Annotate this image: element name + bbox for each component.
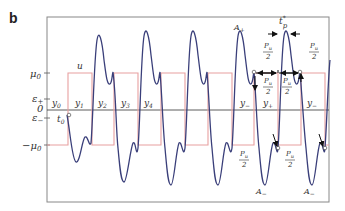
y-axis-labels: μ0 ε+ 0 ε− −μ0	[22, 68, 44, 153]
A-plus-label: A+	[233, 23, 245, 33]
pu2-label: Pu 2	[263, 42, 273, 61]
pu2-label: Pu 2	[239, 150, 249, 169]
u-label: u	[77, 61, 83, 71]
svg-text:Pu: Pu	[239, 150, 248, 159]
svg-text:2: 2	[241, 161, 247, 169]
svg-text:2: 2	[311, 53, 317, 61]
segment-y-plus: y+	[262, 98, 273, 109]
segment-y2: y2	[97, 98, 107, 109]
pu2-label: Pu 2	[309, 42, 319, 61]
segment-y-minus: y−	[239, 98, 250, 109]
svg-text:Pu: Pu	[282, 77, 291, 86]
segment-y-minus-2: y−	[306, 98, 317, 109]
svg-text:2: 2	[265, 88, 271, 96]
diagram-canvas: μ0 ε+ 0 ε− −μ0 u t0 y0 y1 y2 y3 y4 y− y+…	[0, 0, 345, 211]
switch-point	[323, 146, 327, 150]
svg-text:Pu: Pu	[263, 77, 272, 86]
switch-point	[298, 70, 302, 74]
pu2-label: Pu 2	[285, 150, 295, 169]
switch-point	[276, 146, 280, 150]
tick-label-neg-mu0: −μ0	[22, 140, 42, 153]
segment-y1: y1	[74, 98, 84, 109]
switch-point	[252, 70, 256, 74]
t0-label: t0	[57, 114, 65, 125]
segment-y4: y4	[143, 98, 153, 109]
segment-y3: y3	[120, 98, 130, 109]
A-minus-label-1: A−	[255, 187, 267, 197]
pu2-label: Pu 2	[263, 77, 273, 96]
svg-text:Pu: Pu	[309, 42, 318, 51]
svg-text:2: 2	[284, 88, 290, 96]
tick-label-mu0: μ0	[30, 68, 42, 81]
switch-point-t0	[67, 113, 71, 117]
segment-y0: y0	[51, 98, 61, 109]
A-minus-label-2: A−	[303, 187, 315, 197]
tick-label-zero: 0	[37, 103, 44, 114]
plot-frame	[47, 17, 329, 202]
pu2-label: Pu 2	[282, 77, 292, 96]
svg-text:2: 2	[265, 53, 271, 61]
svg-text:2: 2	[287, 161, 293, 169]
svg-text:Pu: Pu	[263, 42, 272, 51]
svg-text:Pu: Pu	[285, 150, 294, 159]
tp-star-label: t*p	[279, 14, 288, 30]
segment-labels: y0 y1 y2 y3 y4 y− y+ y−	[51, 98, 317, 109]
